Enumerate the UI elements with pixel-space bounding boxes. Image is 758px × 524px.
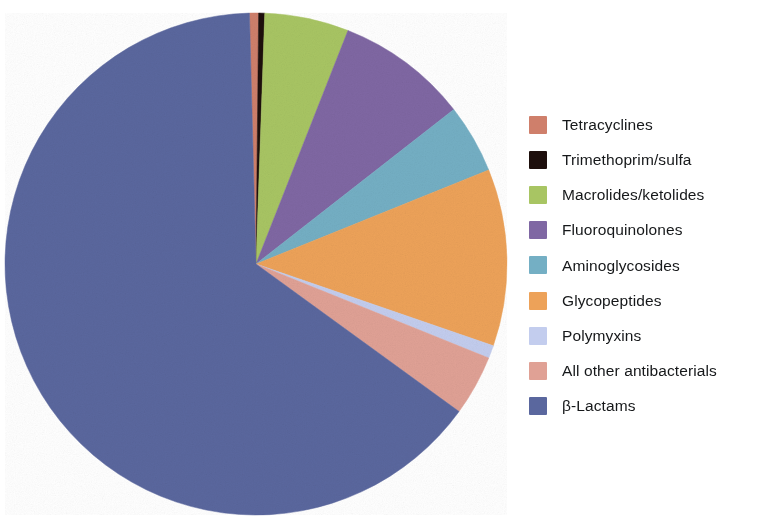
- legend-item[interactable]: Fluoroquinolones: [529, 213, 755, 248]
- pie-slices-group: [5, 13, 507, 515]
- legend-item[interactable]: Glycopeptides: [529, 283, 755, 318]
- legend-item-label: Fluoroquinolones: [562, 222, 683, 238]
- legend-color-swatch: [529, 116, 547, 134]
- legend-color-swatch: [529, 221, 547, 239]
- legend-color-swatch: [529, 186, 547, 204]
- pie-chart-svg: [0, 0, 520, 524]
- legend-color-swatch: [529, 362, 547, 380]
- legend-item-label: Trimethoprim/sulfa: [562, 152, 692, 168]
- legend-item[interactable]: Aminoglycosides: [529, 248, 755, 283]
- legend-color-swatch: [529, 327, 547, 345]
- legend-color-swatch: [529, 397, 547, 415]
- legend-item[interactable]: Trimethoprim/sulfa: [529, 142, 755, 177]
- legend-color-swatch: [529, 256, 547, 274]
- pie-chart-plot-area: [0, 0, 520, 524]
- chart-legend: TetracyclinesTrimethoprim/sulfaMacrolide…: [529, 107, 755, 424]
- legend-item[interactable]: β-Lactams: [529, 389, 755, 424]
- legend-item-label: Aminoglycosides: [562, 258, 680, 274]
- legend-color-swatch: [529, 151, 547, 169]
- legend-color-swatch: [529, 292, 547, 310]
- pie-chart-figure: TetracyclinesTrimethoprim/sulfaMacrolide…: [0, 0, 758, 524]
- legend-item[interactable]: Macrolides/ketolides: [529, 177, 755, 212]
- legend-item-label: Glycopeptides: [562, 293, 662, 309]
- legend-item-label: Macrolides/ketolides: [562, 187, 704, 203]
- legend-item[interactable]: Tetracyclines: [529, 107, 755, 142]
- legend-item-label: All other antibacterials: [562, 363, 717, 379]
- legend-item[interactable]: Polymyxins: [529, 318, 755, 353]
- legend-item-label: Polymyxins: [562, 328, 641, 344]
- legend-item[interactable]: All other antibacterials: [529, 353, 755, 388]
- legend-item-label: Tetracyclines: [562, 117, 653, 133]
- legend-item-label: β-Lactams: [562, 398, 636, 414]
